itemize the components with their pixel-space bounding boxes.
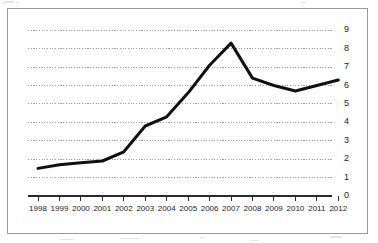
data-line [38,43,338,168]
y-tick-label: 1 [344,173,349,182]
data-series-group [38,43,338,168]
x-tick-label: 2010 [283,205,307,213]
y-tick-label: 0 [344,191,349,200]
x-tick-label: 2012 [326,205,350,213]
x-tick-label: 2000 [69,205,93,213]
x-tick-label: 2008 [241,205,265,213]
x-tick-label: 2006 [198,205,222,213]
y-tick-label: 3 [344,136,349,145]
x-tick-label: 2007 [219,205,243,213]
y-tick-label: 2 [344,154,349,163]
x-tick-label: 2005 [176,205,200,213]
chart-figure: 0123456789 19981999200020012002200320042… [0,0,378,243]
x-tick-label: 1999 [48,205,72,213]
x-tick-label: 2004 [155,205,179,213]
x-tick-label: 2003 [133,205,157,213]
x-tick-label: 2009 [262,205,286,213]
y-tick-label: 7 [344,62,349,71]
x-axis-group [28,196,338,201]
y-tick-label: 8 [344,44,349,53]
x-tick-label: 2011 [305,205,329,213]
y-tick-label: 4 [344,117,349,126]
y-tick-label: 9 [344,25,349,34]
y-tick-label: 5 [344,99,349,108]
x-tick-label: 2001 [90,205,114,213]
y-tick-label: 6 [344,81,349,90]
x-tick-label: 2002 [112,205,136,213]
x-tick-label: 1998 [26,205,50,213]
